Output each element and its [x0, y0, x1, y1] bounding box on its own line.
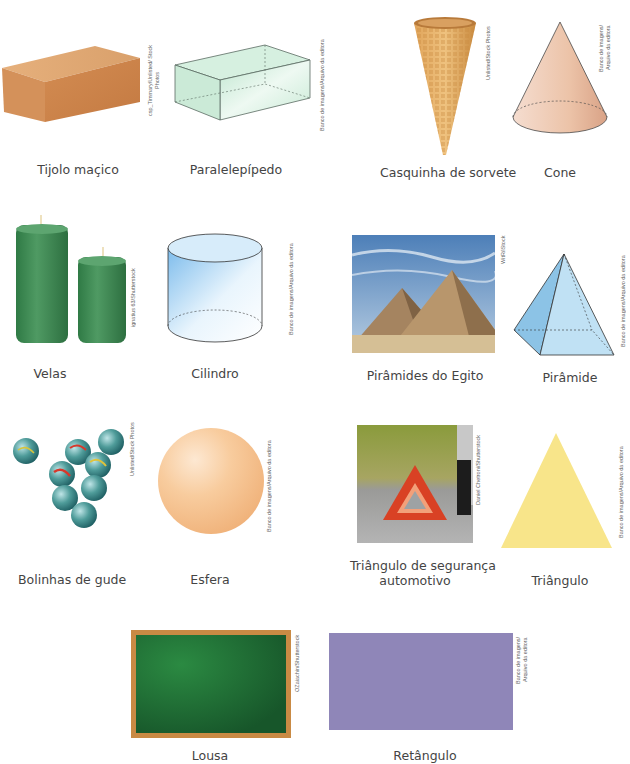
credit-pyramids-of-egypt: WitR/iStock	[500, 235, 508, 265]
credit-brick: csp_Timmary/Unlisted/ Stock Photos	[147, 40, 161, 120]
label-ice-cream-cone: Casquinha de sorvete	[380, 165, 505, 181]
candles-photo	[14, 215, 129, 345]
figure-cylinder	[165, 232, 265, 344]
brick-photo	[0, 40, 145, 130]
credit-cone: Banco de imagens/ Arquivo da editora	[598, 18, 614, 78]
figure-triangle	[500, 432, 613, 549]
figure-parallelepiped	[170, 40, 315, 125]
figure-blackboard	[131, 630, 291, 738]
label-cylinder: Cilindro	[180, 366, 250, 382]
figure-pyramid	[512, 252, 617, 357]
label-rectangle: Retângulo	[385, 748, 465, 764]
sphere-diagram	[157, 427, 265, 535]
credit-candles: ignatius 63/Shutterstock	[130, 260, 138, 335]
cone-diagram	[510, 20, 610, 140]
figure-brick	[0, 40, 145, 130]
blackboard-photo	[131, 630, 291, 738]
figure-warning-triangle	[357, 425, 473, 543]
label-warning-triangle-line2: automotivo	[350, 573, 480, 589]
credit-pyramid: Banco de imagens/Arquivo da editora	[620, 245, 628, 357]
triangle-diagram	[500, 432, 613, 549]
credit-ice-cream-cone: Unlisted/Stock Photos	[485, 18, 493, 88]
parallelepiped-diagram	[170, 40, 315, 125]
warning-triangle-photo	[357, 425, 473, 543]
label-triangle: Triângulo	[525, 573, 595, 589]
figure-pyramids-of-egypt	[352, 235, 495, 353]
pyramids-photo	[352, 235, 495, 353]
label-pyramid: Pirâmide	[535, 370, 605, 386]
cylinder-diagram	[165, 232, 265, 344]
label-parallelepiped: Paralelepípedo	[176, 162, 296, 178]
credit-blackboard: OZaiachin/Shutterstock	[294, 628, 302, 698]
label-pyramids-of-egypt: Pirâmides do Egito	[365, 368, 485, 384]
label-cone: Cone	[530, 165, 590, 181]
label-sphere: Esfera	[185, 572, 235, 588]
credit-sphere: Banco de imagens/Arquivo da editora	[266, 430, 274, 542]
ice-cream-cone-photo	[410, 15, 480, 155]
label-warning-triangle-line1: Triângulo de segurança	[350, 558, 480, 574]
credit-warning-triangle: Daniel Chetroni/Shutterstock	[475, 425, 483, 515]
cropped-header-text	[0, 0, 630, 2]
figure-rectangle	[329, 633, 513, 730]
credit-triangle: Banco de imagens/Arquivo da editora	[618, 435, 626, 550]
label-brick: Tijolo maçico	[18, 162, 138, 178]
credit-cylinder: Banco de imagens/Arquivo da editora	[288, 232, 296, 347]
credit-rectangle: Banco de imagens/ Arquivo da editora	[515, 630, 531, 690]
figure-candles	[14, 215, 129, 345]
label-candles: Velas	[20, 366, 80, 382]
label-blackboard: Lousa	[180, 748, 240, 764]
label-marbles: Bolinhas de gude	[18, 572, 123, 588]
figure-ice-cream-cone	[410, 15, 480, 155]
rectangle-diagram	[329, 633, 513, 730]
credit-parallelepiped: Banco de imagens/Arquivo da editora	[319, 25, 327, 145]
figure-cone	[510, 20, 610, 140]
figure-sphere	[157, 427, 265, 535]
credit-marbles: Unlisted/Stock Photos	[129, 416, 137, 482]
pyramid-diagram	[512, 252, 617, 357]
marbles-photo	[8, 420, 128, 530]
figure-marbles	[8, 420, 128, 530]
